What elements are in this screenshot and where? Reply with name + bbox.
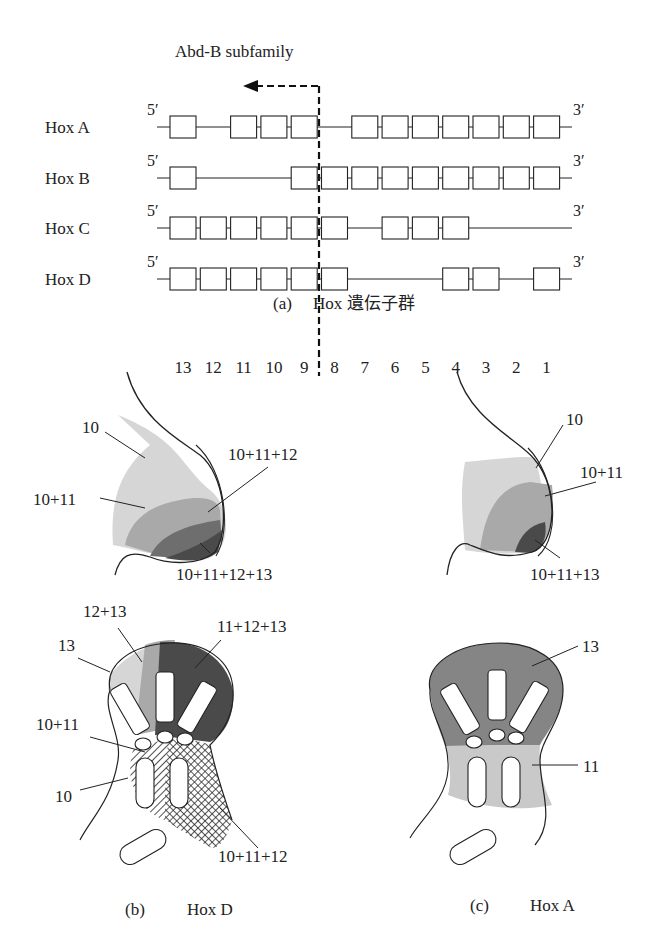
gene-box-13 [170,116,196,138]
gene-box-8 [322,167,348,189]
paralog-number: 13 [175,358,192,377]
gene-box-3 [473,116,499,138]
panel-b-limb-bud: 10 10+11 10+11+12 10+11+12+13 [33,372,298,584]
paralog-number: 12 [205,358,222,377]
gene-box-6 [382,217,408,239]
gene-box-9 [291,167,317,189]
gene-box-5 [412,167,438,189]
label-10-11-12: 10+11+12 [218,847,288,866]
cluster-hox-b: Hox B5′3′ [45,152,585,189]
paralog-number: 6 [391,358,400,377]
label-11: 11 [583,757,599,776]
gene-box-4 [443,116,469,138]
label-10-11-13: 10+11+13 [530,565,600,584]
cluster-hox-d: Hox D5′3′ [45,253,585,290]
paralog-number: 5 [421,358,430,377]
three-prime-label: 3′ [573,101,585,118]
label-10-11: 10+11 [36,715,79,734]
gene-box-13 [170,167,196,189]
gene-box-2 [503,167,529,189]
paralog-number: 10 [265,358,282,377]
label-13: 13 [582,637,599,656]
five-prime-label: 5′ [147,152,159,169]
caption-letter: (b) [125,900,145,919]
gene-box-10 [261,268,287,290]
three-prime-label: 3′ [573,202,585,219]
cluster-label: Hox D [45,270,91,289]
gene-box-8 [322,217,348,239]
gene-box-13 [170,217,196,239]
panel-b-limb: 12+13 13 11+12+13 10+11 10 10+11+12 [36,602,288,868]
gene-box-7 [352,167,378,189]
gene-box-5 [412,217,438,239]
cluster-hox-a: Hox A5′3′ [45,101,585,138]
panel-c-limb-bud: 10 10+11 10+11+13 [447,372,623,584]
panel-b-caption: (b) Hox D [125,900,233,919]
gene-box-11 [231,116,257,138]
paralog-numbers: 13121110987654321 [175,358,551,377]
cluster-label: Hox A [45,118,91,137]
gene-box-4 [443,167,469,189]
panel-a-caption: (a) Hox 遺伝子群 [273,294,415,313]
paralog-number: 2 [512,358,521,377]
caption-letter: (c) [470,896,489,915]
three-prime-label: 3′ [573,152,585,169]
gene-box-6 [382,116,408,138]
caption-text: Hox 遺伝子群 [313,294,415,313]
abd-b-subfamily-label: Abd-B subfamily [175,42,294,61]
paralog-number: 3 [482,358,491,377]
gene-box-9 [291,116,317,138]
gene-box-3 [473,167,499,189]
label-11-12-13: 11+12+13 [217,617,287,636]
paralog-number: 4 [451,358,460,377]
label-13: 13 [58,636,75,655]
label-10-11-12-13: 10+11+12+13 [176,565,272,584]
five-prime-label: 5′ [147,101,159,118]
gene-box-11 [231,268,257,290]
gene-box-8 [322,268,348,290]
gene-box-9 [291,217,317,239]
gene-box-10 [261,217,287,239]
label-10-11: 10+11 [580,463,623,482]
panel-a-gene-clusters: Abd-B subfamily Hox A5′3′Hox B5′3′Hox C5… [45,42,585,377]
gene-box-5 [412,116,438,138]
panel-c-limb: 13 11 [410,637,599,868]
gene-box-10 [261,116,287,138]
paralog-number: 8 [330,358,339,377]
paralog-number: 11 [235,358,251,377]
gene-box-2 [503,116,529,138]
cluster-label: Hox B [45,169,90,188]
gene-box-13 [170,268,196,290]
five-prime-label: 5′ [147,202,159,219]
gene-box-6 [382,167,408,189]
gene-box-1 [534,268,560,290]
gene-box-4 [443,268,469,290]
label-10: 10 [55,787,72,806]
gene-box-3 [473,268,499,290]
three-prime-label: 3′ [573,253,585,270]
gene-box-12 [200,268,226,290]
label-10-11: 10+11 [33,490,76,509]
cluster-hox-c: Hox C5′3′ [45,202,585,239]
caption-text: Hox D [187,900,233,919]
caption-letter: (a) [273,294,292,313]
caption-text: Hox A [530,896,576,915]
label-10: 10 [566,410,583,429]
paralog-number: 7 [361,358,370,377]
gene-box-1 [534,116,560,138]
gene-box-1 [534,167,560,189]
hox-figure: Abd-B subfamily Hox A5′3′Hox B5′3′Hox C5… [0,0,669,947]
gene-box-12 [200,217,226,239]
label-10: 10 [82,418,99,437]
paralog-number: 1 [542,358,551,377]
cluster-label: Hox C [45,219,90,238]
gene-box-11 [231,217,257,239]
paralog-number: 9 [300,358,309,377]
five-prime-label: 5′ [147,253,159,270]
gene-box-9 [291,268,317,290]
gene-box-7 [352,116,378,138]
gene-box-4 [443,217,469,239]
label-12-13: 12+13 [83,602,127,621]
label-10-11-12: 10+11+12 [228,445,298,464]
arrow-left-icon [243,80,258,92]
